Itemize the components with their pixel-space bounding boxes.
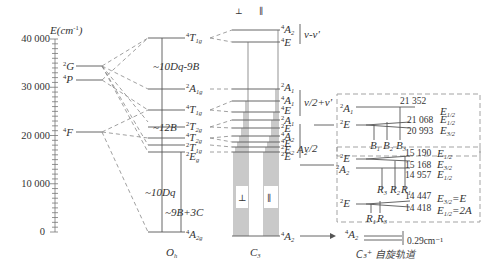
svg-text:B2: B2 (383, 139, 394, 152)
axis-minor-ticks (50, 39, 58, 232)
oh-levels: 4T1g 2A1g 4T1g 2T2g 4T2g 2T1g 2Eg 4A2g ~… (145, 31, 204, 259)
annot-10Dq: ~10Dq (145, 186, 176, 198)
svg-text:4A2: 4A2 (345, 228, 359, 241)
term-2G: 2G (63, 60, 74, 72)
c3-level-4A2-ground: 4A2 (281, 230, 295, 243)
bracket-v2: ν/2 (304, 142, 318, 154)
polarization-parallel: ∥ (267, 193, 271, 203)
annot-9B3C: ~9B+3C (165, 206, 204, 218)
correlation-lines-left (102, 38, 148, 232)
tick-20000: 20 000 (21, 130, 50, 141)
oh-level-4A2g: 4A2g (186, 228, 203, 241)
svg-text:R3: R3 (376, 212, 388, 225)
svg-text:R3: R3 (376, 183, 388, 196)
polarization-perp-top: ⊥ (235, 7, 243, 16)
energy-level-diagram: E(cm-1) 40 000 30 000 20 000 10 000 0 2G… (0, 0, 484, 278)
svg-text:15 190: 15 190 (405, 148, 431, 158)
c3-level-2E-b: 2E (281, 150, 291, 162)
polarization-parallel-top: ∥ (259, 6, 263, 16)
svg-text:21 352: 21 352 (400, 96, 426, 106)
free-ion-terms: 2G 4P 4F (63, 60, 102, 138)
svg-text:14 957: 14 957 (405, 170, 431, 180)
brackets: ν-ν' ν/2+ν' ν/2 (300, 24, 334, 165)
polarization-perp: ⊥ (238, 193, 246, 203)
c3-level-2A1: 2A1 (281, 81, 294, 94)
symmetry-c3: C3 (250, 246, 261, 259)
tick-10000: 10 000 (21, 178, 50, 189)
term-4F: 4F (63, 126, 73, 138)
ground-splitting: 4A2 0.29cm⁻¹ C₃⁺ 自旋轨道 (300, 228, 443, 260)
term-4P: 4P (63, 73, 73, 85)
c3-level-4E-top: 4E (281, 36, 291, 48)
symmetry-oh: Oh (166, 246, 177, 259)
oh-level-4T1g-b: 4T1g (186, 103, 203, 116)
svg-text:20 993: 20 993 (407, 126, 433, 136)
svg-text:2A1: 2A1 (340, 102, 353, 115)
svg-text:2A2: 2A2 (336, 163, 350, 176)
svg-text:B1: B1 (370, 139, 380, 152)
correlation-lines-right (210, 30, 232, 152)
tick-0: 0 (40, 226, 45, 237)
svg-text:E1/2=2A: E1/2=2A (436, 204, 472, 217)
oh-level-2A1g: 2A1g (186, 82, 203, 95)
svg-text:14 418: 14 418 (405, 203, 431, 213)
svg-text:R2: R2 (389, 183, 401, 196)
tick-40000: 40 000 (21, 33, 50, 44)
ground-caption: C₃⁺ 自旋轨道 (356, 249, 417, 260)
bracket-v2-v: ν/2+ν' (304, 96, 333, 108)
svg-text:2E: 2E (340, 197, 350, 209)
annot-12B: ~12B (153, 121, 177, 133)
c3-levels: ⊥ ∥ ⊥ ∥ 4A2 4E 2A1 4A1 4E 2A1 2E 4A2 4E … (232, 6, 308, 259)
svg-text:15 168: 15 168 (405, 160, 431, 170)
svg-text:21 068: 21 068 (407, 115, 433, 125)
detail-box-bottom-content: 2E 2A2 2E 15 190 15 168 14 957 14 447 14… (336, 147, 472, 225)
svg-text:R1: R1 (365, 212, 376, 225)
oh-level-4T1g: 4T1g (186, 31, 203, 44)
annot-10Dq-9B: ~10Dq-9B (153, 60, 200, 72)
splitting-value: 0.29cm⁻¹ (407, 236, 443, 246)
svg-text:2E: 2E (340, 118, 350, 130)
detail-box-top-content: 2A1 2E 21 352 21 068 20 993 E1/2 E1/2 E3… (340, 96, 456, 152)
energy-axis: E(cm-1) 40 000 30 000 20 000 10 000 0 (21, 24, 83, 237)
axis-label: E(cm-1) (49, 24, 83, 37)
c3-level-4A2-top: 4A2 (281, 23, 295, 36)
bracket-v-v: ν-ν' (304, 28, 320, 40)
svg-text:R1: R1 (400, 183, 411, 196)
tick-30000: 30 000 (21, 81, 50, 92)
